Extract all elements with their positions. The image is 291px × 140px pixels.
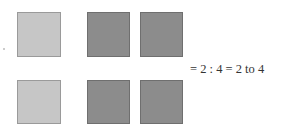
light-square-top — [17, 12, 61, 57]
dark-square-top-2 — [140, 12, 183, 57]
dark-square-bottom-1 — [87, 80, 130, 124]
stray-mark — [3, 48, 5, 50]
dark-square-bottom-2 — [140, 80, 183, 124]
ratio-equation: = 2 : 4 = 2 to 4 — [190, 62, 264, 77]
dark-square-top-1 — [87, 12, 130, 57]
light-square-bottom — [17, 80, 61, 124]
